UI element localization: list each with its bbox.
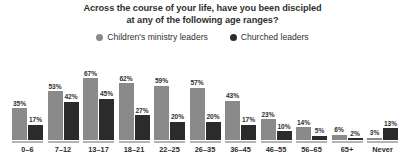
bar [383, 128, 398, 140]
x-axis-category-label: 26–35 [189, 143, 222, 155]
x-axis-category-label: 22–25 [153, 143, 186, 155]
bar-pair: 35%17% [11, 53, 44, 140]
x-axis-category-label: 18–21 [118, 143, 151, 155]
legend-item-churched-leaders: Churched leaders [230, 32, 309, 42]
bar [367, 138, 382, 141]
chart-container: Across the course of your life, have you… [0, 0, 405, 155]
bar [119, 83, 134, 140]
legend-item-childrens-ministry-leaders: Children's ministry leaders [96, 32, 208, 42]
chart-legend: Children's ministry leaders Churched lea… [0, 32, 405, 42]
plot-area: 35%17%0–653%42%7–1267%45%13–1762%27%18–2… [0, 50, 405, 155]
bar-pair: 53%42% [47, 53, 80, 140]
bar [154, 86, 169, 141]
bar-value-label: 13% [384, 120, 397, 128]
bar-value-label: 20% [171, 113, 184, 121]
bar-item: 35% [12, 53, 27, 140]
bar-value-label: 27% [135, 107, 148, 115]
bar-value-label: 57% [190, 79, 203, 87]
bar-value-label: 5% [315, 127, 325, 135]
bar-pair: 57%20% [189, 53, 222, 140]
bar [190, 88, 205, 141]
bar-item: 5% [312, 53, 327, 140]
bar-groups: 35%17%0–653%42%7–1267%45%13–1762%27%18–2… [11, 50, 399, 155]
x-axis-category-label: 56–65 [295, 143, 328, 155]
x-axis-category-label: Never [366, 143, 399, 155]
bar [48, 91, 63, 140]
bar-item: 27% [135, 53, 150, 140]
bar-value-label: 10% [277, 123, 290, 131]
bar-item: 2% [348, 53, 363, 140]
bar [241, 125, 256, 141]
bar-pair: 67%45% [82, 53, 115, 140]
bar-group: 3%13%Never [366, 50, 399, 155]
x-axis-category-label: 0–6 [11, 143, 44, 155]
bar-group: 67%45%13–17 [82, 50, 115, 155]
bar-group: 35%17%0–6 [11, 50, 44, 155]
bar [225, 101, 240, 141]
bar-item: 43% [225, 53, 240, 140]
circle-marker-icon [96, 34, 103, 41]
bar-pair: 3%13% [366, 53, 399, 140]
bar-group: 43%17%36–45 [224, 50, 257, 155]
bar-item: 59% [154, 53, 169, 140]
bar-value-label: 2% [350, 130, 360, 138]
bar-item: 45% [99, 53, 114, 140]
chart-title-line-1: Across the course of your life, have you… [0, 2, 405, 14]
bar [206, 122, 221, 141]
bar-value-label: 17% [29, 116, 42, 124]
bar [99, 99, 114, 141]
bar-group: 23%10%46–55 [260, 50, 293, 155]
bar-group: 59%20%22–25 [153, 50, 186, 155]
bar-value-label: 3% [370, 129, 380, 137]
bar [261, 119, 276, 140]
bar-group: 14%5%56–65 [295, 50, 328, 155]
x-axis-category-label: 46–55 [260, 143, 293, 155]
x-axis-category-label: 7–12 [47, 143, 80, 155]
bar-value-label: 14% [297, 119, 310, 127]
bar-pair: 62%27% [118, 53, 151, 140]
bar-item: 3% [367, 53, 382, 140]
chart-title-line-2: at any of the following age ranges? [0, 14, 405, 26]
bar-pair: 59%20% [153, 53, 186, 140]
bar-item: 17% [241, 53, 256, 140]
bar-group: 57%20%26–35 [189, 50, 222, 155]
bar-group: 6%2%65+ [331, 50, 364, 155]
bar [170, 122, 185, 141]
bar-pair: 23%10% [260, 53, 293, 140]
bar-value-label: 45% [100, 90, 113, 98]
bar-value-label: 43% [226, 92, 239, 100]
bar-value-label: 35% [13, 100, 26, 108]
bar-value-label: 67% [84, 70, 97, 78]
bar-pair: 6%2% [331, 53, 364, 140]
bar-item: 6% [332, 53, 347, 140]
bar-value-label: 20% [206, 113, 219, 121]
bar [312, 136, 327, 141]
bar-item: 17% [28, 53, 43, 140]
bar-item: 57% [190, 53, 205, 140]
bar-value-label: 53% [48, 83, 61, 91]
bar-value-label: 62% [119, 75, 132, 83]
x-axis-category-label: 13–17 [82, 143, 115, 155]
circle-marker-icon [230, 34, 237, 41]
bar-value-label: 23% [261, 111, 274, 119]
bar [12, 108, 27, 140]
bar-item: 13% [383, 53, 398, 140]
chart-title: Across the course of your life, have you… [0, 2, 405, 27]
legend-label: Children's ministry leaders [107, 32, 208, 42]
bar [296, 127, 311, 140]
bar-group: 62%27%18–21 [118, 50, 151, 155]
bar [332, 135, 347, 141]
bar-value-label: 59% [155, 77, 168, 85]
bar-group: 53%42%7–12 [47, 50, 80, 155]
legend-label: Churched leaders [241, 32, 309, 42]
bar [277, 131, 292, 140]
bar-item: 53% [48, 53, 63, 140]
bar [135, 115, 150, 140]
bar-value-label: 42% [64, 93, 77, 101]
bar-item: 20% [206, 53, 221, 140]
bar-pair: 43%17% [224, 53, 257, 140]
bar [83, 78, 98, 140]
bar-value-label: 17% [242, 116, 255, 124]
bar [64, 102, 79, 141]
bar-value-label: 6% [334, 126, 344, 134]
